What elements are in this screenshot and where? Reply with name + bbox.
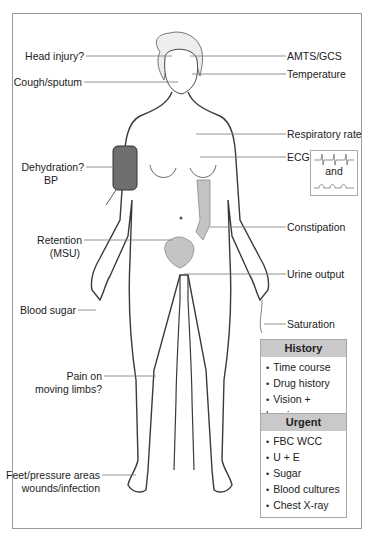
label-blood-sugar: Blood sugar [20, 304, 76, 316]
label-feet-pressure: Feet/pressure areas [6, 469, 100, 481]
label-constipation: Constipation [287, 221, 345, 233]
urgent-item: U + E [266, 450, 342, 466]
label-urine-output: Urine output [287, 268, 344, 280]
label-msu: (MSU) [50, 247, 80, 259]
urgent-item: Chest X-ray [266, 498, 342, 514]
urgent-title: Urgent [261, 414, 346, 431]
bp-cuff [113, 146, 137, 190]
bladder [165, 237, 194, 268]
label-saturation: Saturation [287, 318, 335, 330]
ecg-and-text: and [311, 165, 357, 177]
label-pain-on: Pain on [66, 370, 102, 382]
label-moving-limbs: moving limbs? [35, 383, 102, 395]
label-ecg: ECG [287, 151, 310, 163]
history-item: Time course [266, 360, 342, 376]
label-retention: Retention [37, 234, 82, 246]
urgent-box: Urgent FBC WCC U + E Sugar Blood culture… [260, 413, 347, 518]
ecg-trace-box: and [310, 150, 358, 196]
label-head-injury: Head injury? [25, 50, 84, 62]
label-bp: BP [44, 174, 58, 186]
label-respiratory-rate: Respiratory rate [287, 128, 362, 140]
label-cough-sputum: Cough/sputum [14, 76, 82, 88]
history-title: History [261, 340, 346, 357]
label-wounds-infection: wounds/infection [22, 482, 100, 494]
history-item: Drug history [266, 376, 342, 392]
colon [196, 180, 210, 240]
urgent-item: Sugar [266, 466, 342, 482]
label-dehydration: Dehydration? [22, 161, 84, 173]
label-temperature: Temperature [287, 68, 346, 80]
urgent-item: Blood cultures [266, 482, 342, 498]
urgent-item: FBC WCC [266, 434, 342, 450]
label-amts-gcs: AMTS/GCS [287, 50, 342, 62]
